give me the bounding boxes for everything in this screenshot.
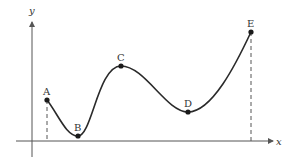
x-axis-label: x xyxy=(276,136,282,147)
function-graph: y x A B C D E xyxy=(0,0,290,162)
point-label-b: B xyxy=(74,122,81,133)
y-axis-label: y xyxy=(28,5,35,16)
point-label-e: E xyxy=(247,18,254,29)
point-e: E xyxy=(247,18,254,35)
point-label-d: D xyxy=(184,98,192,109)
point-label-a: A xyxy=(42,86,51,97)
point-label-c: C xyxy=(117,52,125,63)
point-a: A xyxy=(42,86,51,103)
function-curve xyxy=(47,32,251,136)
